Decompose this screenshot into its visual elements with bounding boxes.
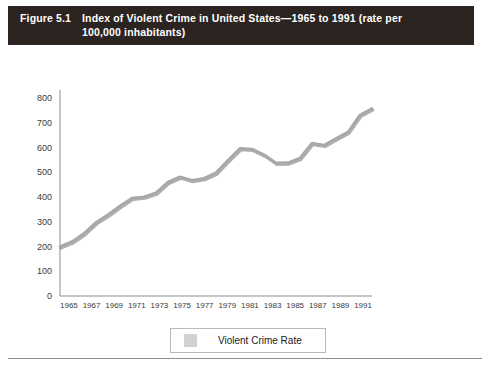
legend-label-violent-crime-rate: Violent Crime Rate	[218, 335, 302, 346]
x-axis-tick-1969: 1969	[105, 301, 123, 311]
plot-canvas	[0, 50, 490, 325]
x-axis-tick-1973: 1973	[151, 301, 169, 311]
x-axis-tick-labels: 1965196719691971197319751977197919811983…	[60, 301, 372, 311]
legend-swatch-violent-crime-rate	[184, 334, 197, 347]
violent-crime-rate-line-shadow	[61, 110, 373, 248]
x-axis-tick-1983: 1983	[264, 301, 282, 311]
x-axis-tick-1991: 1991	[354, 301, 372, 311]
violent-crime-rate-line	[60, 108, 372, 246]
x-axis-tick-1965: 1965	[60, 301, 78, 311]
x-axis-tick-1975: 1975	[173, 301, 191, 311]
violent-crime-line-chart: 0100200300400500600700800 19651967196919…	[0, 50, 490, 325]
figure-title-text-continued: 100,000 inhabitants)	[82, 26, 185, 38]
x-axis-tick-1979: 1979	[218, 301, 236, 311]
figure-title-text: Index of Violent Crime in United States—…	[82, 12, 402, 24]
x-axis-tick-1985: 1985	[286, 301, 304, 311]
x-axis-tick-1989: 1989	[332, 301, 350, 311]
x-axis-tick-1967: 1967	[83, 301, 101, 311]
x-axis-tick-1987: 1987	[309, 301, 327, 311]
figure-title-banner: Figure 5.1Index of Violent Crime in Unit…	[8, 6, 474, 45]
x-axis-tick-1971: 1971	[128, 301, 146, 311]
figure-title-line-1: Figure 5.1Index of Violent Crime in Unit…	[20, 11, 464, 25]
footer-divider	[8, 358, 482, 359]
chart-legend: Violent Crime Rate	[170, 328, 326, 353]
x-axis-tick-1977: 1977	[196, 301, 214, 311]
figure-title-line-2: 100,000 inhabitants)	[20, 25, 464, 39]
x-axis-tick-1981: 1981	[241, 301, 259, 311]
figure-number: Figure 5.1	[20, 11, 82, 25]
